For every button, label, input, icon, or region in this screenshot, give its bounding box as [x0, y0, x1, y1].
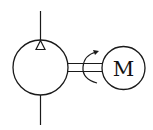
flow-direction-triangle-icon: [36, 41, 45, 50]
pump-motor-diagram: M: [0, 0, 153, 130]
motor-label: M: [113, 57, 135, 81]
drive-shaft: [68, 64, 102, 72]
rotation-arrow-icon: [83, 50, 99, 83]
